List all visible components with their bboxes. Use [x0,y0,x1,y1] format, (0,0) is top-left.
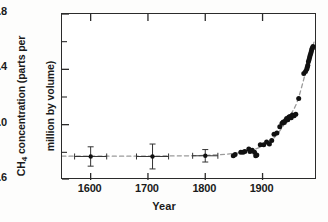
y-axis-title-subscript: 4 [20,157,29,161]
data-point [293,112,298,117]
data-point [269,138,274,143]
y-axis-title-rest1: concentration (parts per [15,36,27,157]
trend-curve [62,42,314,157]
x-tick-label: 1700 [117,182,177,194]
x-tick-label: 1600 [60,182,120,194]
plot-area [61,13,316,179]
y-tick-label: 1.8 [0,5,7,17]
methane-concentration-chart: CH4 concentration (parts per million by … [0,0,328,222]
x-tick-label: 1800 [174,182,234,194]
y-tick-label: 1.0 [0,116,7,128]
y-axis-title-rest2: million by volume) [44,61,56,151]
x-axis-title: Year [0,200,328,212]
y-tick-label: 0.6 [0,171,7,183]
data-point [203,154,207,158]
error-bars [75,144,218,169]
x-tick-label: 1900 [232,182,292,194]
y-tick-label: 1.4 [0,60,7,72]
data-point [254,153,259,158]
data-points [89,44,316,159]
y-axis-title: CH4 concentration (parts per million by … [2,21,56,191]
data-point [233,152,238,157]
data-point [311,44,316,49]
y-axis-title-ch: CH [15,161,27,176]
data-point [150,154,154,158]
data-point [89,154,93,158]
data-point [296,96,301,101]
data-point [274,131,279,136]
plot-canvas [62,14,317,180]
